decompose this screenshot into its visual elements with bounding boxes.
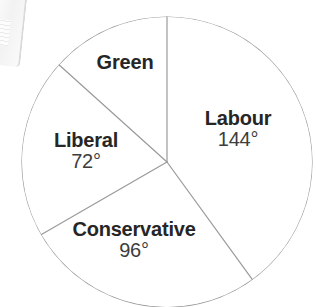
slice-label-liberal: Liberal 72°	[34, 130, 138, 172]
slice-name-labour: Labour	[186, 108, 290, 129]
slice-label-green: Green	[78, 52, 172, 73]
slice-name-conservative: Conservative	[50, 219, 218, 240]
slice-label-labour: Labour 144°	[186, 108, 290, 150]
slice-value-labour: 144°	[186, 129, 290, 150]
slice-name-green: Green	[78, 52, 172, 73]
slice-value-liberal: 72°	[34, 151, 138, 172]
pie-chart-figure: Green Labour 144° Liberal 72° Conservati…	[0, 0, 316, 307]
slice-value-conservative: 96°	[50, 240, 218, 261]
slice-name-liberal: Liberal	[34, 130, 138, 151]
slice-label-conservative: Conservative 96°	[50, 219, 218, 261]
